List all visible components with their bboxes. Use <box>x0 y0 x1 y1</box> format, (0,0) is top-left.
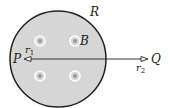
field-label: B <box>79 34 89 48</box>
arrowhead-q-icon <box>141 57 148 62</box>
point-p-label: P <box>12 52 22 66</box>
point-q-label: Q <box>151 52 161 66</box>
r2-label: r2 <box>136 62 145 75</box>
diagram-canvas: R B P Q r1 r2 <box>0 0 170 108</box>
region-label: R <box>89 5 99 19</box>
